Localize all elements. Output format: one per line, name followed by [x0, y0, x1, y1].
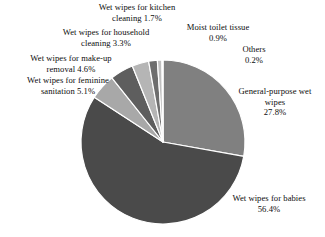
pie-label-wet-wipes-make-up-removal: Wet wipes for make-up removal 4.6% — [6, 53, 136, 74]
pie-chart-figure: Wet wipes for kitchen cleaning 1.7% Wet … — [0, 0, 325, 237]
pie-label-wet-wipes-feminine-sanitation: Wet wipes for feminine sanitation 5.1% — [2, 75, 134, 96]
pie-label-others: Others 0.2% — [224, 44, 284, 65]
pie-label-wet-wipes-kitchen-cleaning: Wet wipes for kitchen cleaning 1.7% — [78, 2, 196, 23]
pie-label-wet-wipes-household-cleaning: Wet wipes for household cleaning 3.3% — [42, 27, 170, 48]
pie-label-wet-wipes-babies: Wet wipes for babies 56.4% — [214, 193, 324, 214]
pie-label-general-purpose-wet-wipes: General-purpose wet wipes 27.8% — [226, 86, 324, 118]
pie-label-moist-toilet-tissue: Moist toilet tissue 0.9% — [170, 22, 266, 43]
